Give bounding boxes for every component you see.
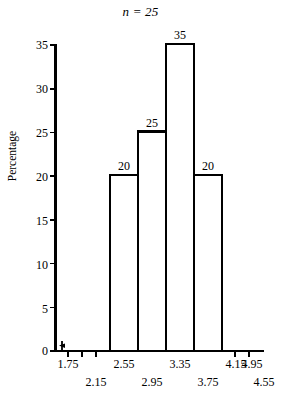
x-tick-label: 4.95 (229, 358, 275, 371)
bar-value-label: 25 (135, 117, 169, 129)
x-tick-label: 2.55 (101, 358, 147, 371)
bar (194, 175, 222, 351)
x-tick-label: 1.75 (45, 358, 91, 371)
histogram-chart: n = 25 Percentage 35 30 25 20 15 10 5 0 (0, 0, 281, 395)
bar-value-label: 20 (191, 160, 225, 172)
x-tick-label: 4.55 (241, 376, 281, 389)
x-tick-label: 3.35 (157, 358, 203, 371)
plot-area (0, 0, 281, 395)
x-tick-label: 3.75 (185, 376, 231, 389)
bar-value-label: 35 (163, 29, 197, 41)
bar (166, 44, 194, 351)
x-tick-label: 2.15 (73, 376, 119, 389)
histogram-bars (110, 44, 222, 351)
bar (110, 175, 138, 351)
y-axis (50, 44, 56, 351)
bar-value-label: 20 (107, 160, 141, 172)
bar (138, 131, 166, 351)
x-tick-label: 2.95 (129, 376, 175, 389)
